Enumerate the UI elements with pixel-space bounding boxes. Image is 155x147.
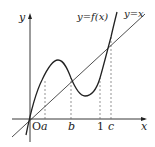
- y-axis-arrow-icon: [28, 13, 32, 19]
- x-axis-label: x: [141, 121, 147, 132]
- origin-label: O: [32, 121, 41, 132]
- tick-label-a: a: [41, 121, 48, 132]
- function-graph-diagram: y y=f(x) y=x O a b 1 c x: [0, 0, 155, 147]
- tick-label-1: 1: [97, 121, 104, 132]
- y-axis-label: y: [19, 12, 25, 23]
- curve-label-identity: y=x: [124, 9, 144, 19]
- cubic-curve: [26, 12, 117, 135]
- tick-label-c: c: [108, 121, 114, 132]
- curve-label-f: y=f(x): [77, 12, 108, 22]
- dashed-guides: [45, 37, 111, 119]
- tick-label-b: b: [68, 121, 75, 132]
